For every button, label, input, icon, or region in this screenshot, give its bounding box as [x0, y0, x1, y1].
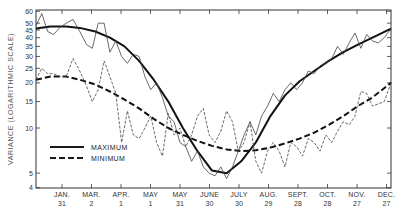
x-tick-day: 30 — [235, 200, 243, 207]
x-tick-day: 1 — [119, 200, 123, 207]
x-tick-month: NOV. — [348, 191, 365, 198]
legend-minimum-label: MINIMUM — [91, 155, 125, 162]
y-tick-label: 35 — [25, 43, 33, 50]
plot-border — [36, 10, 391, 188]
x-tick-month: JAN. — [54, 191, 70, 198]
x-tick-day: 28 — [323, 200, 331, 207]
y-tick-label: 25 — [25, 65, 33, 72]
y-tick-label: 4 — [29, 184, 33, 191]
plot-frame — [36, 10, 391, 188]
y-tick-label: 30 — [25, 53, 33, 60]
chart: 4510152025303540455060 JAN.31MAR.2APR.1M… — [0, 0, 403, 214]
x-tick-month: MAY — [143, 191, 158, 198]
series-minimum-observed — [36, 59, 391, 174]
x-tick-day: 27 — [382, 200, 390, 207]
x-tick-day: 31 — [176, 200, 184, 207]
y-tick-label: 20 — [25, 79, 33, 86]
x-tick-month: OCT. — [319, 191, 336, 198]
y-tick-label: 5 — [29, 170, 33, 177]
x-tick-day: 2 — [89, 200, 93, 207]
x-tick-day: 28 — [294, 200, 302, 207]
x-tick-month: APR. — [112, 191, 129, 198]
y-axis-title: VARIANCE (LOGARITHMIC SCALE) — [7, 33, 15, 165]
series-layer — [36, 14, 391, 179]
x-tick-day: 30 — [205, 200, 213, 207]
legend-maximum-label: MAXIMUM — [91, 144, 128, 151]
x-tick-day: 29 — [264, 200, 272, 207]
y-axis: 4510152025303540455060 — [25, 8, 391, 191]
x-tick-month: JULY — [230, 191, 248, 198]
x-tick-month: AUG. — [260, 191, 278, 198]
series-maximum-smoothed — [36, 27, 391, 174]
y-tick-label: 50 — [25, 20, 33, 27]
x-tick-day: 27 — [353, 200, 361, 207]
x-tick-month: JUNE — [200, 191, 219, 198]
y-tick-label: 45 — [25, 27, 33, 34]
x-tick-month: DEC. — [378, 191, 396, 198]
y-tick-label: 60 — [25, 8, 33, 15]
x-tick-month: SEPT. — [288, 191, 308, 198]
series-maximum-observed — [36, 14, 391, 179]
legend: MAXIMUM MINIMUM — [50, 144, 128, 162]
x-tick-day: 31 — [58, 200, 66, 207]
y-tick-label: 15 — [25, 98, 33, 105]
x-tick-month: MAY — [172, 191, 187, 198]
series-minimum-smoothed — [36, 77, 391, 152]
x-tick-day: 1 — [148, 200, 152, 207]
x-tick-month: MAR. — [82, 191, 100, 198]
x-axis: JAN.31MAR.2APR.1MAY1MAY31JUNE30JULY30AUG… — [54, 10, 395, 207]
y-tick-label: 40 — [25, 34, 33, 41]
y-tick-label: 10 — [25, 125, 33, 132]
